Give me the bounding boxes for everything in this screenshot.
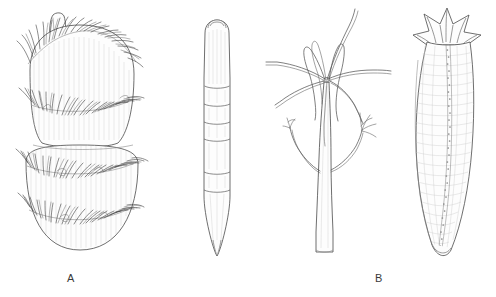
striations-a-lower [31, 146, 131, 252]
panel-c: C [265, 0, 395, 268]
body-outline-d [414, 42, 474, 256]
lateral-branch-c-left [283, 118, 320, 173]
panel-label-b: B [369, 272, 389, 284]
specimen-c-drawing [265, 0, 395, 268]
panel-label-a: A [61, 272, 81, 284]
panel-a: A [0, 0, 170, 268]
specimen-b-drawing [170, 0, 265, 268]
stalk-c [316, 82, 333, 252]
lateral-branch-c-right [331, 113, 376, 172]
specimen-d-drawing [395, 0, 496, 268]
body-segment-a-upper [30, 25, 134, 148]
figure-plate: A [0, 0, 496, 297]
oral-crown-d [413, 8, 481, 45]
specimen-a-drawing [0, 0, 170, 268]
panel-d: D [395, 0, 496, 268]
panel-b: B [170, 0, 265, 268]
